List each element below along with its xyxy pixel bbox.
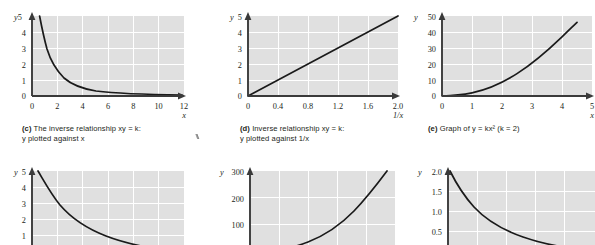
panel-c-y-tick-1: 1: [22, 77, 26, 86]
panel-c-x-tick-12: 12: [180, 102, 188, 111]
panel-d-y-tick-0: 0: [238, 92, 242, 101]
panel-d-y-tick-3: 3: [238, 45, 242, 54]
panel-c-svg: y 5 4 3 2 1 0 0 2 4 6 8 10 12 x: [0, 8, 200, 118]
panel-e-y-tick-0: 0: [432, 92, 436, 101]
panel-c-chart: y 5 4 3 2 1 0 0 2 4 6 8 10 12 x: [0, 8, 200, 118]
panel-bottom-left-y-tick-3: 3: [22, 200, 26, 209]
panel-e-y-tick-20: 20: [428, 61, 436, 70]
panel-d-x-axis-label: 1/x: [393, 111, 403, 120]
panel-e-y-axis-label: y: [413, 13, 418, 22]
panel-bottom-right-chart: y 2.0 1.5 1.0 0.5: [408, 163, 595, 245]
panel-c-caption-text: The inverse relationship xy = k: y plott…: [22, 124, 141, 143]
panel-e-y-tick-30: 30: [428, 45, 436, 54]
panel-c-y-tick-0: 0: [22, 92, 26, 101]
panel-c-y-tick-4: 4: [22, 29, 27, 38]
panel-e-chart: y 50 40 30 20 10 0 0 1 2 3 4 5 x: [408, 8, 595, 118]
panel-bottom-left-y-tick-5: 5: [22, 168, 26, 177]
panel-c-x-tick-4: 4: [81, 102, 86, 111]
panel-e-x-tick-4: 4: [560, 102, 565, 111]
panel-e-svg: y 50 40 30 20 10 0 0 1 2 3 4 5 x: [408, 8, 595, 118]
panel-d-caption-tag: (d): [240, 124, 250, 133]
panel-bottom-right-plot-area: [448, 171, 595, 245]
panel-bottom-right-y-tick-05: 0.5: [432, 228, 442, 237]
panel-e-x-tick-5: 5: [590, 102, 594, 111]
panel-c-y-tick-2: 2: [22, 61, 26, 70]
panel-bottom-right-y-tick-15: 1.5: [432, 188, 442, 197]
panel-c-x-tick-2: 2: [55, 102, 59, 111]
panel-bottom-middle-plot-area: [250, 171, 395, 245]
panel-bottom-middle-svg: y 300 200 100: [210, 163, 410, 245]
panel-bottom-left-chart: y 5 4 3 2 1: [0, 163, 200, 245]
panel-e-y-tick-10: 10: [428, 77, 436, 86]
panel-d-x-tick-12: 1.2: [333, 102, 343, 111]
panel-e-caption: (e) Graph of y = kx² (k = 2): [428, 124, 595, 134]
panel-c-x-axis-label: x: [181, 111, 186, 120]
panel-bottom-middle-y-tick-100: 100: [232, 221, 244, 230]
panel-e-x-tick-2: 2: [500, 102, 504, 111]
panel-bottom-left-y-tick-2: 2: [22, 216, 26, 225]
panel-d-y-tick-1: 1: [238, 77, 242, 86]
scan-artifact: [190, 134, 204, 139]
panel-d-y-tick-5: 5: [238, 13, 242, 22]
panel-bottom-middle-y-axis-label: y: [219, 168, 224, 177]
panel-e-y-tick-50: 50: [428, 13, 436, 22]
panel-d-y-tick-2: 2: [238, 61, 242, 70]
panel-bottom-right-y-axis-label: y: [417, 168, 422, 177]
panel-d-y-tick-4: 4: [238, 29, 243, 38]
panel-e-x-axis-label: x: [589, 111, 594, 120]
panel-e-x-tick-1: 1: [470, 102, 474, 111]
panel-d-x-tick-16: 1.6: [363, 102, 373, 111]
panel-d-svg: y 5 4 3 2 1 0 0 0.4 0.8 1.2 1.6 2.0 1/x: [218, 8, 408, 118]
panel-e-caption-tag: (e): [428, 124, 438, 133]
panel-bottom-right-y-tick-20: 2.0: [432, 168, 442, 177]
panel-c-x-tick-10: 10: [154, 102, 162, 111]
panel-c-caption: (c) The inverse relationship xy = k: y p…: [22, 124, 197, 145]
panel-c-x-tick-6: 6: [106, 102, 110, 111]
panel-bottom-left-y-tick-1: 1: [22, 232, 26, 241]
panel-c-x-tick-8: 8: [131, 102, 135, 111]
panel-bottom-right-y-tick-10: 1.0: [432, 208, 442, 217]
panel-bottom-left-svg: y 5 4 3 2 1: [0, 163, 200, 245]
panel-c-y-tick-3: 3: [22, 45, 26, 54]
panel-bottom-right-svg: y 2.0 1.5 1.0 0.5: [408, 163, 595, 245]
panel-c-caption-tag: (c): [22, 124, 32, 133]
panel-d-y-axis-label: y: [229, 13, 234, 22]
panel-d-chart: y 5 4 3 2 1 0 0 0.4 0.8 1.2 1.6 2.0 1/x: [218, 8, 408, 118]
panel-e-x-tick-3: 3: [530, 102, 534, 111]
panel-bottom-left-y-tick-4: 4: [22, 184, 27, 193]
panel-d-x-tick-08: 0.8: [303, 102, 313, 111]
panel-bottom-middle-chart: y 300 200 100: [210, 163, 410, 245]
panel-d-caption: (d) Inverse relationship xy = k: y plott…: [240, 124, 410, 145]
panel-bottom-middle-y-tick-300: 300: [232, 168, 244, 177]
panel-c-x-tick-0: 0: [30, 102, 34, 111]
panel-e-x-tick-0: 0: [440, 102, 444, 111]
panel-bottom-left-y-axis-label: y: [13, 168, 18, 177]
panel-e-plot-area: [442, 16, 592, 96]
panel-bottom-middle-y-tick-200: 200: [232, 195, 244, 204]
panel-d-caption-text: Inverse relationship xy = k: y plotted a…: [240, 124, 344, 143]
panel-e-caption-text: Graph of y = kx² (k = 2): [440, 124, 520, 133]
panel-e-y-tick-40: 40: [428, 29, 436, 38]
panel-d-x-tick-20: 2.0: [393, 102, 403, 111]
panel-c-y-tick-5: 5: [18, 13, 22, 22]
panel-d-x-tick-04: 0.4: [273, 102, 284, 111]
figure-panel-group: y 5 4 3 2 1 0 0 2 4 6 8 10 12 x (c) The …: [0, 0, 595, 245]
panel-d-x-tick-0: 0: [246, 102, 250, 111]
